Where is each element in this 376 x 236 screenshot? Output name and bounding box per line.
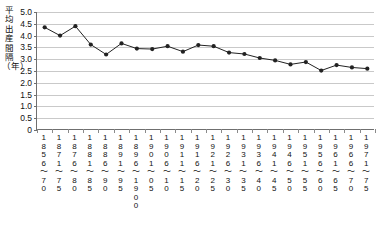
- data-point: [304, 60, 308, 64]
- x-axis-label: 1936〜40: [252, 134, 266, 194]
- x-axis-label-char: 0: [221, 185, 235, 194]
- x-axis-label-char: 0: [190, 185, 204, 194]
- x-axis-label: 1951〜55: [298, 134, 312, 194]
- x-axis-label: 1886〜90: [98, 134, 112, 194]
- x-axis-label: 1946〜50: [283, 134, 297, 194]
- x-axis-label: 1956〜60: [313, 134, 327, 194]
- x-axis-label-char: 0: [252, 185, 266, 194]
- x-axis-label: 1971〜75: [359, 134, 373, 194]
- x-axis-label-char: 0: [160, 185, 174, 194]
- data-point: [181, 50, 185, 54]
- x-axis-label-char: 0: [98, 185, 112, 194]
- x-axis-label-char: 5: [267, 185, 281, 194]
- x-axis-label-char: 0: [344, 185, 358, 194]
- y-axis-label: 3.5: [0, 43, 32, 52]
- data-point: [119, 41, 123, 45]
- data-point: [165, 44, 169, 48]
- x-axis-label-char: 5: [144, 185, 158, 194]
- x-axis-label: 1941〜45: [267, 134, 281, 194]
- data-point: [319, 68, 323, 72]
- data-point: [334, 63, 338, 67]
- x-axis-label: 1966〜70: [344, 134, 358, 194]
- x-axis-label-char: 5: [359, 185, 373, 194]
- x-axis-label-char: 5: [329, 185, 343, 194]
- x-axis-label: 1891〜95: [114, 134, 128, 194]
- data-point: [350, 65, 354, 69]
- x-axis-label: 1881〜85: [83, 134, 97, 194]
- data-point: [288, 62, 292, 66]
- x-axis-label-char: 0: [37, 185, 51, 194]
- data-point: [89, 42, 93, 46]
- x-axis-label: 1871〜75: [52, 134, 66, 194]
- data-point: [43, 25, 47, 29]
- x-axis-label: 1906〜10: [160, 134, 174, 194]
- plot-area: [36, 12, 374, 130]
- data-point: [196, 43, 200, 47]
- chart-figure: 平 均 出 産 間 隔 （年） 00.51.01.52.02.53.03.54.…: [0, 0, 376, 236]
- x-axis-label: 1896〜1900: [129, 134, 143, 211]
- x-axis-label-char: 0: [313, 185, 327, 194]
- data-series-line: [37, 12, 375, 130]
- x-axis-label-char: 5: [114, 185, 128, 194]
- x-axis-label-char: 0: [129, 202, 143, 211]
- data-point: [273, 58, 277, 62]
- data-point: [58, 34, 62, 38]
- x-axis-label: 1931〜35: [236, 134, 250, 194]
- data-point: [150, 47, 154, 51]
- y-axis-label: 0.5: [0, 114, 32, 123]
- x-axis-label-char: 5: [298, 185, 312, 194]
- x-axis-labels: 1856〜701871〜751876〜801881〜851886〜901891〜…: [36, 134, 374, 218]
- x-axis-label-char: 5: [236, 185, 250, 194]
- series-polyline: [45, 26, 368, 70]
- y-axis-label: 1.0: [0, 102, 32, 111]
- y-axis-label: 4.0: [0, 32, 32, 41]
- y-axis-label: 1.5: [0, 91, 32, 100]
- x-axis-label: 1901〜05: [144, 134, 158, 194]
- x-axis-label: 1876〜80: [67, 134, 81, 194]
- x-axis-label-char: 5: [175, 185, 189, 194]
- y-axis-label: 0: [0, 126, 32, 135]
- data-point: [135, 46, 139, 50]
- x-axis-label-char: 0: [283, 185, 297, 194]
- data-point: [104, 52, 108, 56]
- data-point: [227, 50, 231, 54]
- x-axis-label: 1911〜15: [175, 134, 189, 194]
- x-axis-label: 1916〜20: [190, 134, 204, 194]
- data-point: [73, 24, 77, 28]
- y-axis-label: 2.5: [0, 67, 32, 76]
- y-axis-label: 5.0: [0, 8, 32, 17]
- data-point: [242, 52, 246, 56]
- y-axis-label: 3.0: [0, 55, 32, 64]
- y-axis-label: 2.0: [0, 79, 32, 88]
- x-axis-label: 1961〜65: [329, 134, 343, 194]
- x-axis-label: 1921〜25: [206, 134, 220, 194]
- y-axis-label: 4.5: [0, 20, 32, 29]
- data-point: [365, 67, 369, 71]
- x-axis-label-char: 5: [83, 185, 97, 194]
- data-point: [258, 56, 262, 60]
- x-axis-label-char: 0: [67, 185, 81, 194]
- data-point: [212, 44, 216, 48]
- x-axis-label-char: 5: [206, 185, 220, 194]
- x-axis-label-char: 5: [52, 185, 66, 194]
- x-axis-label: 1926〜30: [221, 134, 235, 194]
- x-axis-label: 1856〜70: [37, 134, 51, 194]
